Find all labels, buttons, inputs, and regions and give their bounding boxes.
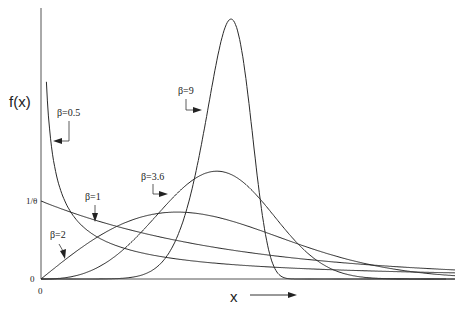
curve-β=1 — [41, 201, 455, 270]
weibull-plot — [0, 0, 458, 312]
label-beta-36: β=3.6 — [141, 172, 164, 182]
label-beta-1: β=1 — [85, 192, 101, 202]
beta-36-pointer-icon — [153, 184, 168, 197]
curve-β=3.6 — [41, 171, 455, 279]
x-tick-zero: 0 — [38, 287, 43, 296]
beta-05-pointer-icon — [53, 121, 69, 144]
label-beta-9: β=9 — [178, 86, 194, 96]
curve-β=0.5 — [46, 82, 455, 273]
x-direction-arrow-icon — [250, 292, 297, 298]
x-axis-label: x — [230, 289, 238, 304]
label-beta-05: β=0.5 — [57, 108, 80, 118]
y-axis-label: f(x) — [9, 94, 31, 109]
label-beta-2: β=2 — [50, 230, 66, 240]
beta-9-pointer-icon — [186, 99, 202, 113]
y-tick-zero: 0 — [30, 275, 35, 284]
y-tick-one-over-theta: 1/θ — [26, 197, 37, 206]
curves — [41, 19, 455, 279]
beta-2-pointer-icon — [59, 244, 66, 259]
